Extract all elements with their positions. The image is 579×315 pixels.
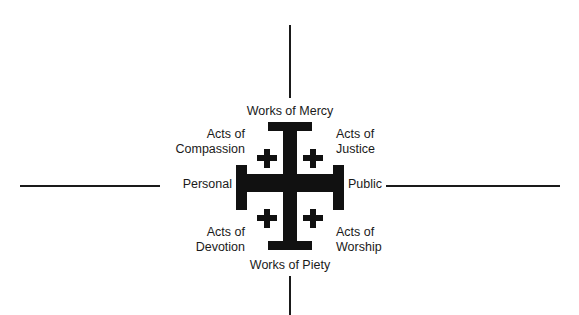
jerusalem-cross-icon — [0, 0, 579, 315]
